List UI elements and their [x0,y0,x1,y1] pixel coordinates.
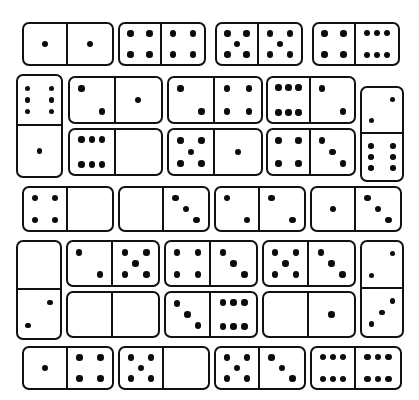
domino-5-3[interactable] [262,240,356,287]
pip [127,51,133,57]
pip [127,30,133,36]
domino-0-3[interactable] [118,186,210,232]
pip [138,365,144,371]
pip [49,86,55,92]
domino-2-3-half-b [362,289,402,336]
pip [244,375,250,381]
domino-2-4[interactable] [167,76,263,124]
pip [25,323,31,329]
pip [295,109,301,115]
domino-0-1-half-b [309,293,354,336]
pip [170,51,176,57]
domino-5-0-half-a [120,348,164,388]
domino-1-4-half-a [24,348,68,388]
domino-6-1-half-a [18,76,61,126]
domino-2-2[interactable] [214,186,306,232]
domino-2-5-half-a [68,242,113,285]
domino-3-6[interactable] [164,291,258,338]
domino-5-1-half-a [169,130,215,174]
domino-6-6[interactable] [310,346,402,390]
pip [268,195,274,201]
pip [295,137,301,143]
pip [128,375,134,381]
domino-2-2-half-a [216,188,260,230]
domino-5-0[interactable] [118,346,210,390]
pip [230,299,236,305]
domino-1-4[interactable] [22,346,114,390]
domino-4-0[interactable] [22,186,114,232]
pip [390,298,396,304]
domino-6-0[interactable] [68,128,163,176]
pip [279,365,285,371]
pip [390,251,396,257]
domino-4-4[interactable] [118,22,206,66]
pip [42,365,48,371]
domino-4-3b[interactable] [164,240,258,287]
pip [97,354,103,360]
pip [330,354,336,360]
pip [319,85,325,91]
domino-1-1[interactable] [22,22,114,66]
domino-0-3-half-b [164,188,208,230]
domino-4-3-half-a [268,130,311,174]
pip [368,143,374,149]
domino-0-2[interactable] [16,240,62,340]
pip [390,154,396,160]
pip [25,109,31,115]
pip [52,195,58,201]
domino-2-3[interactable] [360,240,404,338]
domino-2-3-half-a [362,242,402,289]
pip [289,375,295,381]
domino-6-1[interactable] [16,74,63,178]
pip [174,300,180,306]
domino-4-6-half-a [314,24,356,64]
domino-2-1-half-a [70,78,116,122]
pip [224,375,230,381]
pip [318,249,324,255]
domino-5-1[interactable] [167,128,263,176]
domino-2-6[interactable] [360,86,404,182]
pip [275,137,281,143]
domino-4-6[interactable] [312,22,400,66]
pip [49,97,55,103]
pip [340,108,346,114]
pip [385,354,391,360]
domino-2-1-half-b [116,78,162,122]
pip [177,160,183,166]
pip [244,217,250,223]
domino-5-0-half-b [164,348,208,388]
domino-6-0-half-b [116,130,162,174]
domino-0-0[interactable] [66,291,160,338]
pip [99,136,105,142]
domino-5-5[interactable] [215,22,303,66]
pip [146,30,152,36]
domino-4-4-half-b [162,24,204,64]
pip [89,136,95,142]
pip [87,41,93,47]
pip [76,249,82,255]
domino-4-3[interactable] [266,128,356,176]
pip [234,365,240,371]
pip [230,260,236,266]
domino-6-6-half-a [312,348,356,388]
domino-2-6-half-a [362,88,402,134]
pip [122,249,128,255]
domino-0-1-half-a [264,293,309,336]
domino-2-1[interactable] [68,76,163,124]
domino-0-1[interactable] [262,291,356,338]
pip [384,30,390,36]
domino-5-3b[interactable] [214,346,306,390]
pip [321,30,327,36]
domino-1-3[interactable] [310,186,402,232]
pip [25,86,31,92]
domino-6-2[interactable] [266,76,356,124]
pip [235,149,241,155]
pip [132,260,138,266]
domino-0-0-half-a [68,293,113,336]
pip [329,149,335,155]
pip [374,30,380,36]
pip [295,160,301,166]
pip [37,148,43,154]
domino-2-5[interactable] [66,240,160,287]
pip [287,30,293,36]
